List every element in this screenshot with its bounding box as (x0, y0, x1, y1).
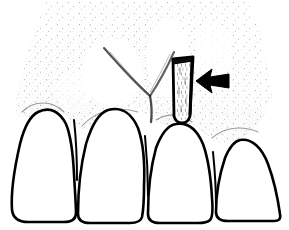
figure-canvas (0, 0, 289, 230)
dental-illustration-figure: Interdental wedge placement in gingival … (0, 0, 289, 230)
wedge-right-edge (190, 60, 192, 114)
wedge-grain (176, 61, 190, 120)
wedge[interactable] (172, 57, 193, 123)
